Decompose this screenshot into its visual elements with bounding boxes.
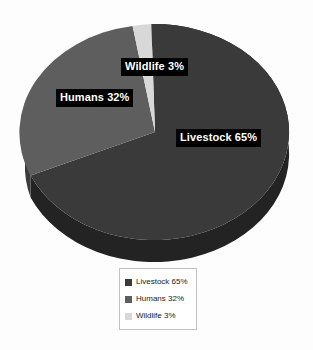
legend-swatch-wildlife bbox=[125, 313, 132, 320]
legend-swatch-livestock bbox=[125, 279, 132, 286]
legend-label-wildlife: Wildlife 3% bbox=[136, 312, 176, 320]
legend-label-livestock: Livestock 65% bbox=[136, 278, 188, 286]
legend-item-livestock: Livestock 65% bbox=[125, 274, 191, 290]
pie-data-label-wildlife: Wildlife 3% bbox=[121, 58, 188, 76]
pie-chart-graphic bbox=[0, 0, 313, 265]
pie-chart-figure: Wildlife 3% Humans 32% Livestock 65% Liv… bbox=[0, 0, 313, 350]
pie-data-label-livestock: Livestock 65% bbox=[176, 129, 261, 147]
legend-item-humans: Humans 32% bbox=[125, 291, 191, 307]
legend-item-wildlife: Wildlife 3% bbox=[125, 308, 191, 324]
pie-data-label-humans: Humans 32% bbox=[56, 89, 133, 107]
legend-label-humans: Humans 32% bbox=[136, 295, 184, 303]
legend-swatch-humans bbox=[125, 296, 132, 303]
chart-legend: Livestock 65% Humans 32% Wildlife 3% bbox=[119, 268, 197, 330]
